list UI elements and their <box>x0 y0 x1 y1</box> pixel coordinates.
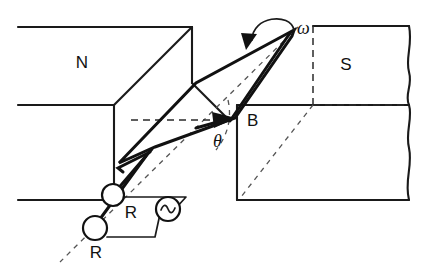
north-lower-slant-edge <box>192 83 227 118</box>
pole-piece-north <box>18 27 227 200</box>
rotation-arrow-head <box>241 33 257 50</box>
diagram-canvas: N S B ω θ R R <box>0 0 429 272</box>
ac-source-symbol <box>156 197 180 221</box>
slip-ring-upper <box>102 184 124 206</box>
angular-velocity-label: ω <box>297 18 310 38</box>
angle-label: θ <box>213 131 222 151</box>
field-vector-label: B <box>247 111 258 130</box>
slip-ring-upper-circle <box>102 184 124 206</box>
slip-ring-lower-label: R <box>90 243 102 262</box>
coil-inner-right-limb <box>230 33 290 121</box>
slip-ring-lower <box>83 216 107 240</box>
physics-diagram-figure: N S B ω θ R R <box>0 0 429 272</box>
north-top-face-diagonal <box>114 27 192 105</box>
south-broken-right-edge <box>407 26 410 200</box>
rotating-coil-loop <box>100 30 294 219</box>
slip-ring-upper-label: R <box>125 203 137 222</box>
south-pole-label: S <box>340 55 351 74</box>
slip-ring-lower-circle <box>83 216 107 240</box>
pole-piece-south <box>237 26 410 200</box>
north-pole-label: N <box>76 53 88 72</box>
